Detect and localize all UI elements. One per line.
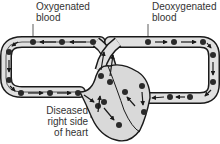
heart	[80, 65, 150, 141]
left-vessel-loop	[6, 42, 100, 92]
circulation-diagram	[0, 0, 220, 144]
